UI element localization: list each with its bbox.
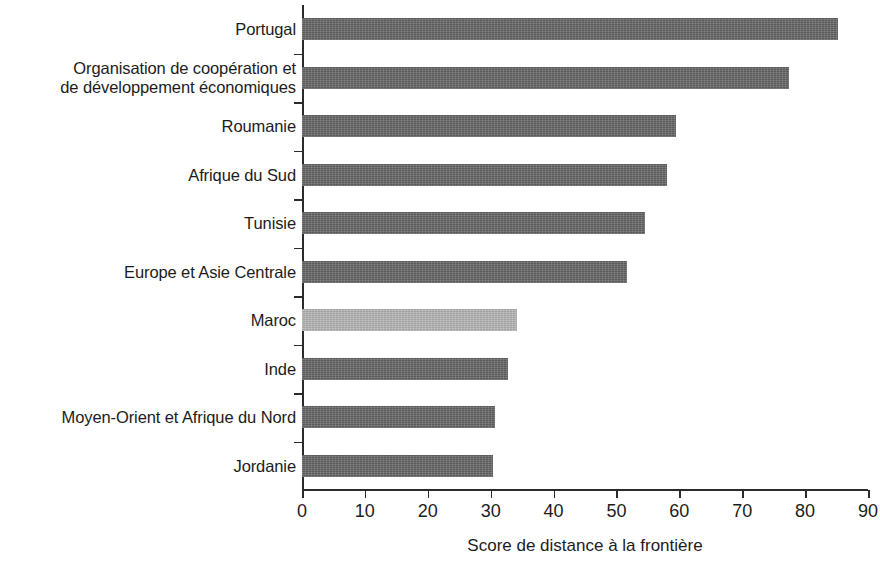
x-axis-title: Score de distance à la frontière [302, 535, 868, 557]
category-label: Jordanie [0, 456, 296, 475]
bar [302, 358, 508, 380]
bar [302, 18, 838, 40]
x-axis-tick [491, 490, 493, 498]
y-axis-tick [294, 151, 302, 153]
x-axis-tick [868, 490, 870, 498]
bar [302, 115, 676, 137]
x-axis-tick [428, 490, 430, 498]
x-axis-tick-label: 80 [795, 500, 815, 522]
category-label: Organisation de coopération et de dévelo… [0, 59, 296, 97]
category-label: Europe et Asie Centrale [0, 262, 296, 281]
category-axis-labels: PortugalOrganisation de coopération et d… [0, 5, 296, 490]
x-axis-tick-label: 90 [858, 500, 878, 522]
bar-chart: PortugalOrganisation de coopération et d… [0, 0, 880, 567]
plot-area [302, 5, 868, 490]
x-axis-tick [616, 490, 618, 498]
x-axis-tick-label: 70 [732, 500, 752, 522]
y-axis-tick [294, 345, 302, 347]
x-axis-tick [365, 490, 367, 498]
x-axis-line [302, 489, 868, 491]
bar [302, 309, 517, 331]
x-axis-tick-label: 10 [355, 500, 375, 522]
category-label: Moyen-Orient et Afrique du Nord [0, 408, 296, 427]
x-axis-tick-label: 40 [544, 500, 564, 522]
category-label: Roumanie [0, 117, 296, 136]
category-label: Tunisie [0, 214, 296, 233]
y-axis-tick [294, 54, 302, 56]
category-label: Portugal [0, 20, 296, 39]
x-axis-tick [742, 490, 744, 498]
category-label: Afrique du Sud [0, 165, 296, 184]
bar [302, 261, 627, 283]
x-axis-tick-label: 0 [297, 500, 307, 522]
category-label: Maroc [0, 311, 296, 330]
y-axis-tick [294, 199, 302, 201]
bar [302, 455, 493, 477]
bar [302, 67, 789, 89]
x-axis-tick-label: 20 [418, 500, 438, 522]
bar [302, 164, 667, 186]
y-axis-tick [294, 393, 302, 395]
x-axis-tick-label: 50 [606, 500, 626, 522]
x-axis-tick [679, 490, 681, 498]
x-axis-tick [554, 490, 556, 498]
bar [302, 406, 495, 428]
x-axis-tick-label: 60 [669, 500, 689, 522]
y-axis-tick [294, 248, 302, 250]
category-label: Inde [0, 359, 296, 378]
x-axis-tick-label: 30 [481, 500, 501, 522]
y-axis-tick [294, 296, 302, 298]
y-axis-tick [294, 442, 302, 444]
x-axis-tick [805, 490, 807, 498]
x-axis-tick-labels: 0102030405060708090 [302, 500, 868, 526]
bar [302, 212, 645, 234]
x-axis-tick [302, 490, 304, 498]
y-axis-tick [294, 102, 302, 104]
